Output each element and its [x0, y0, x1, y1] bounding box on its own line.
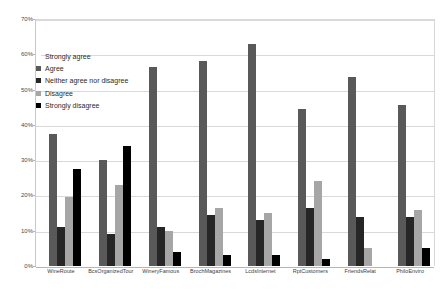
legend-label: Agree [45, 64, 64, 73]
y-axis-tick-label: 10% [3, 228, 33, 234]
bar [123, 146, 131, 266]
bar-group [290, 19, 330, 266]
y-axis-tick-label: 20% [3, 192, 33, 198]
bar [414, 210, 422, 266]
legend-item[interactable]: Disagree [36, 89, 128, 98]
y-axis-tick-label: 30% [3, 157, 33, 163]
bar-group [191, 19, 231, 266]
bar [314, 181, 322, 266]
x-axis-tick-label: BcsOrganizedTour [88, 268, 133, 274]
chart-legend: Strongly agreeAgreeNeither agree nor dis… [36, 52, 128, 110]
y-axis-tick-label: 50% [3, 87, 33, 93]
legend-label: Strongly agree [45, 52, 91, 61]
legend-item[interactable]: Strongly disagree [36, 101, 128, 110]
legend-item[interactable]: Strongly agree [36, 52, 128, 61]
bar [364, 248, 372, 266]
x-axis-tick-label: RptCustomers [293, 268, 328, 274]
bar [149, 67, 157, 266]
bar [398, 105, 406, 266]
x-axis-tick-label: WineRoute [47, 268, 74, 274]
bar [65, 197, 73, 266]
legend-swatch-icon [36, 91, 41, 96]
legend-swatch-icon [36, 103, 41, 108]
bar [173, 252, 181, 266]
y-axis-tick-label: 70% [3, 16, 33, 22]
bar [348, 77, 356, 266]
legend-item[interactable]: Neither agree nor disagree [36, 76, 128, 85]
bar-group [141, 19, 181, 266]
bar [406, 217, 414, 266]
bar [115, 185, 123, 266]
bar [256, 220, 264, 266]
bar [157, 227, 165, 266]
bar [322, 259, 330, 266]
bar [215, 208, 223, 266]
bar [272, 255, 280, 266]
bar-group [240, 19, 280, 266]
bar [207, 215, 215, 266]
legend-label: Disagree [45, 89, 73, 98]
bar [57, 227, 65, 266]
bar [248, 44, 256, 266]
y-axis: 0%10%20%30%40%50%60%70% [0, 19, 33, 266]
x-axis: WineRouteBcsOrganizedTourWineryFamousBro… [36, 268, 435, 284]
legend-label: Strongly disagree [45, 101, 99, 110]
legend-swatch-icon [36, 78, 41, 83]
legend-swatch-icon [36, 66, 41, 71]
bar [107, 234, 115, 266]
bar [264, 213, 272, 266]
bar [99, 160, 107, 266]
bar-group [390, 19, 430, 266]
bar [199, 61, 207, 266]
legend-item[interactable]: Agree [36, 64, 128, 73]
bar-group [340, 19, 380, 266]
bar [422, 248, 430, 266]
y-axis-tick-label: 40% [3, 122, 33, 128]
bar [298, 109, 306, 266]
x-axis-tick-label: WineryFamous [142, 268, 179, 274]
bar [223, 255, 231, 266]
bar [306, 208, 314, 266]
bar-chart: 0%10%20%30%40%50%60%70% WineRouteBcsOrga… [0, 0, 441, 303]
x-axis-tick-label: LcdsInternet [245, 268, 275, 274]
x-axis-tick-label: BrochMagazines [190, 268, 231, 274]
legend-label: Neither agree nor disagree [45, 76, 128, 85]
x-axis-tick-label: FriendsRelat [345, 268, 376, 274]
bar [165, 231, 173, 266]
bar [49, 134, 57, 266]
y-axis-tick-label: 60% [3, 51, 33, 57]
bar [73, 169, 81, 266]
y-axis-tick-label: 0% [3, 263, 33, 269]
legend-swatch-icon [36, 54, 41, 59]
bar [356, 217, 364, 266]
x-axis-tick-label: PhiloEnviro [396, 268, 424, 274]
